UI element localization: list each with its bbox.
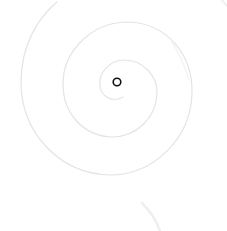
faint-arc-bottom [142,203,160,231]
spiral-line [21,2,192,175]
faint-corner-top-right [222,0,227,6]
spiral-canvas [0,0,227,231]
center-marker-icon[interactable] [113,78,121,86]
